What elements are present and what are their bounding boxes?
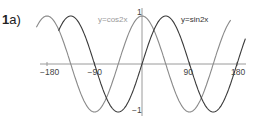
y-tick-label: 1 (137, 7, 142, 17)
x-tick-label: −180 (40, 67, 59, 77)
x-tick-label: 180 (231, 67, 245, 77)
y-tick-label: −1 (132, 105, 142, 115)
x-tick-label: 90 (184, 67, 194, 77)
x-tick-label: −90 (88, 67, 103, 77)
sin-curve-label: y=sin2x (181, 15, 208, 24)
trig-graph: −180−90901801−1 y=cos2x y=sin2x (0, 0, 259, 126)
cos-curve-label: y=cos2x (98, 15, 128, 24)
